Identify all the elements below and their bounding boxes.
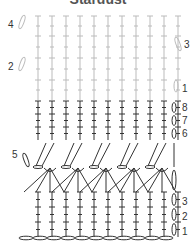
row-labels: 43218765321 (8, 19, 190, 237)
crochet-chart: 43218765321 (0, 0, 196, 247)
row-label: 8 (182, 102, 188, 113)
upper-rows-light (18, 15, 183, 100)
row-label: 2 (182, 211, 188, 222)
row-label: 1 (182, 226, 188, 237)
row-label: 1 (182, 83, 188, 94)
lower-rows-dark (19, 101, 181, 240)
row-label: 6 (182, 128, 188, 139)
row-label: 5 (12, 149, 18, 160)
row-label: 2 (8, 61, 14, 72)
row-label: 4 (8, 19, 14, 30)
row-label: 3 (182, 196, 188, 207)
row-label: 7 (182, 115, 188, 126)
row-label: 3 (184, 39, 190, 50)
